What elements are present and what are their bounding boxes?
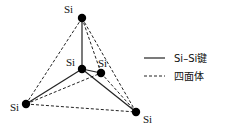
si-atom-right	[132, 108, 140, 116]
tetrahedron-edge-top-right	[82, 18, 136, 112]
si-tetrahedron-diagram: Si Si Si Si Si Si–Si键 四面体	[0, 0, 225, 136]
legend-dashed-label: 四面体	[174, 71, 204, 82]
tetrahedron-edge-left-back	[26, 73, 101, 104]
si-atom-back	[97, 69, 105, 77]
legend-solid-label: Si–Si键	[174, 52, 207, 64]
si-atom-top	[78, 14, 86, 22]
atom-label-back: Si	[98, 57, 107, 69]
si-atom-center	[78, 65, 86, 73]
si-atom-left	[22, 100, 30, 108]
atom-label-right: Si	[143, 113, 152, 125]
tetrahedron-edge-left-right	[26, 104, 136, 112]
legend: Si–Si键 四面体	[144, 52, 207, 82]
si-si-bond-center-right	[82, 69, 136, 112]
atom-label-center: Si	[66, 56, 75, 68]
si-si-bond-center-left	[26, 69, 82, 104]
atom-label-left: Si	[10, 101, 19, 113]
tetrahedron-edge-back-right	[101, 73, 136, 112]
atom-label-top: Si	[64, 3, 73, 15]
